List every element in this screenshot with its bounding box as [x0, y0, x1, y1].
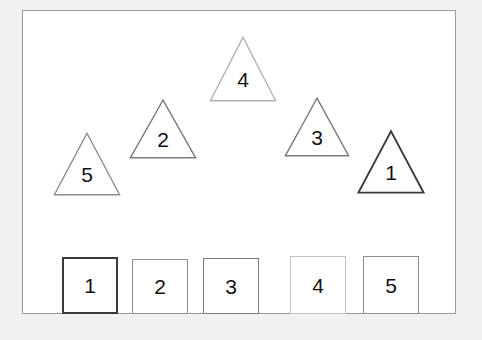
square-1[interactable]: 1 — [62, 257, 118, 314]
square-5[interactable]: 5 — [363, 256, 419, 314]
triangle-4-label: 4 — [209, 69, 277, 90]
square-2[interactable]: 2 — [132, 259, 188, 314]
triangle-5-label: 5 — [53, 164, 121, 185]
shape-matching-canvas: 5 2 4 3 1 1 2 3 4 5 — [0, 0, 482, 340]
square-2-label: 2 — [154, 276, 166, 297]
square-4-label: 4 — [312, 275, 324, 296]
triangle-2[interactable]: 2 — [129, 99, 197, 159]
square-1-label: 1 — [84, 275, 96, 296]
triangle-3[interactable]: 3 — [284, 97, 350, 157]
square-3[interactable]: 3 — [203, 258, 259, 314]
square-5-label: 5 — [385, 275, 397, 296]
triangle-4[interactable]: 4 — [209, 36, 277, 102]
triangle-2-label: 2 — [129, 129, 197, 150]
triangle-5[interactable]: 5 — [53, 132, 121, 196]
triangle-3-label: 3 — [284, 127, 350, 148]
square-4[interactable]: 4 — [290, 256, 346, 314]
square-3-label: 3 — [225, 276, 237, 297]
triangle-1-label: 1 — [357, 162, 425, 183]
triangle-1[interactable]: 1 — [357, 130, 425, 194]
